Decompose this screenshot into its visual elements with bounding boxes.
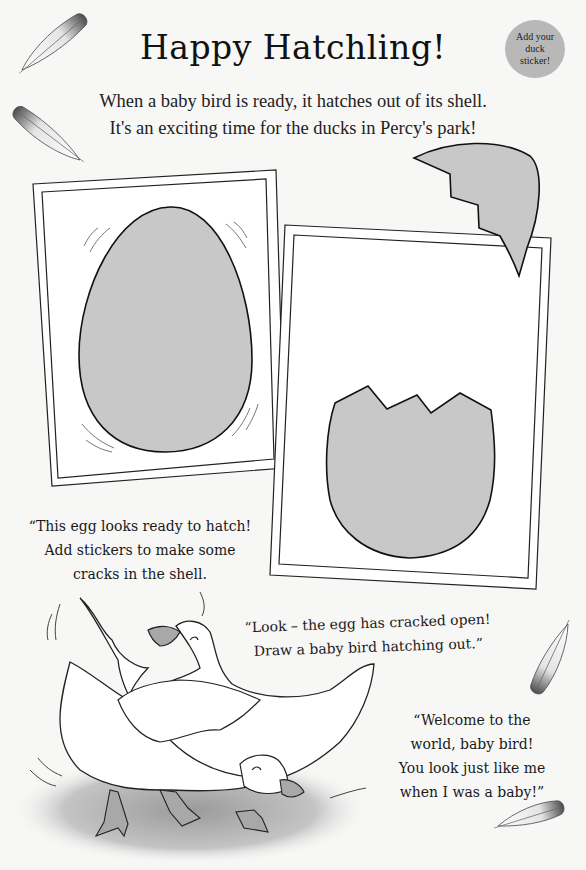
caption-egg-cracked: “Look – the egg has cracked open! Draw a… <box>237 606 499 663</box>
caption-egg-ready: “This egg looks ready to hatch! Add stic… <box>20 514 260 586</box>
caption-line: when I was a baby!” <box>372 780 572 804</box>
caption-line: world, baby bird! <box>372 732 572 756</box>
caption-line: Add stickers to make some <box>20 538 260 562</box>
page-title: Happy Hatchling! <box>0 28 586 67</box>
intro-line-1: When a baby bird is ready, it hatches ou… <box>60 88 526 115</box>
feather-right-icon <box>527 618 580 697</box>
duck-sticker-badge[interactable]: Add your duck sticker! <box>505 20 565 78</box>
intro-text: When a baby bird is ready, it hatches ou… <box>60 88 526 142</box>
caption-line: “This egg looks ready to hatch! <box>20 514 260 538</box>
caption-line: You look just like me <box>372 756 572 780</box>
intro-line-2: It's an exciting time for the ducks in P… <box>60 115 526 142</box>
caption-welcome: “Welcome to the world, baby bird! You lo… <box>372 708 572 804</box>
caption-line: cracks in the shell. <box>20 562 260 586</box>
hatching-drawing-area[interactable] <box>284 240 540 576</box>
badge-label: Add your duck sticker! <box>512 31 558 67</box>
whole-egg-sticker-area[interactable] <box>44 182 270 476</box>
caption-line: “Welcome to the <box>372 708 572 732</box>
